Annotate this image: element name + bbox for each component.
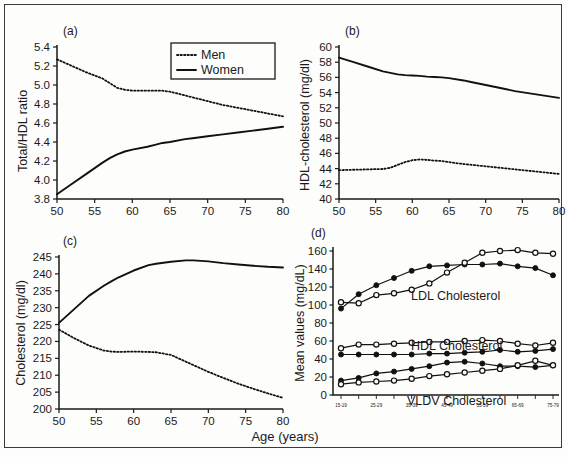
data-point-marker (409, 376, 414, 381)
data-point-marker (391, 341, 396, 346)
ytick-label: 220 (33, 335, 52, 347)
ytick-label: 140 (308, 263, 327, 275)
data-point-marker (374, 283, 379, 288)
data-point-marker (533, 365, 538, 370)
ytick-label: 46 (319, 147, 332, 159)
xtick-label: 70 (202, 415, 215, 427)
data-point-marker (427, 374, 432, 379)
xtick-label: 75 (516, 205, 529, 217)
legend-women-label: Women (201, 63, 244, 77)
data-point-marker (392, 352, 397, 357)
data-point-marker (533, 250, 538, 255)
ytick-label: 245 (33, 251, 52, 263)
panel-a-ytick-labels: 3.84.04.24.44.64.85.05.25.4 (34, 41, 51, 205)
ytick-label: 205 (33, 386, 52, 398)
shared-xaxis-title: Age (years) (185, 429, 385, 444)
data-point-marker (551, 347, 556, 352)
data-point-marker (497, 366, 502, 371)
data-point-marker (551, 273, 556, 278)
xtick-label: 25-29 (370, 403, 382, 408)
panel-b-ytick-labels: 4042444648505254565860 (319, 41, 332, 205)
data-point-marker (374, 352, 379, 357)
data-point-marker (515, 363, 520, 368)
data-point-marker (427, 264, 432, 269)
ytick-label: 48 (319, 132, 332, 144)
ytick-label: 58 (319, 56, 332, 68)
panel-d-svg: (d) Mean values (mg/dL) 0204060801001201… (293, 223, 568, 423)
xtick-label: 60 (406, 205, 419, 217)
xtick-label: 60 (127, 415, 140, 427)
ytick-label: 54 (319, 87, 332, 99)
ytick-label: 215 (33, 352, 52, 364)
ytick-label: 40 (319, 193, 332, 205)
panel-c-label: (c) (63, 234, 77, 248)
series-line-women (57, 127, 283, 194)
panel-a-label: (a) (63, 24, 78, 38)
data-point-marker (374, 293, 379, 298)
panel-b-hdl-cholesterol: (b) HDL-cholesterol (mg/dl) 404244464850… (293, 13, 568, 227)
ytick-label: 0 (321, 389, 327, 401)
data-point-marker (533, 266, 538, 271)
ytick-label: 20 (314, 371, 327, 383)
data-point-marker (462, 370, 467, 375)
ytick-label: 40 (314, 353, 327, 365)
ytick-label: 3.8 (34, 193, 50, 205)
data-point-marker (338, 346, 343, 351)
xtick-label: 80 (277, 205, 290, 217)
xtick-label: 70 (201, 205, 214, 217)
xtick-label: 65-69 (512, 403, 524, 408)
data-point-marker (480, 361, 485, 366)
panel-a-svg: (a) Total/HDL ratio 3.84.04.24.44.64.85.… (11, 13, 293, 227)
xtick-label: 55 (90, 415, 103, 427)
ytick-label: 240 (33, 268, 52, 280)
data-point-marker (515, 264, 520, 269)
panel-d-label: (d) (311, 226, 326, 240)
data-point-marker (533, 348, 538, 353)
data-point-marker (550, 363, 555, 368)
ytick-label: 100 (308, 299, 327, 311)
xtick-label: 15-19 (335, 403, 347, 408)
panel-a-legend: Men Women (171, 43, 275, 79)
data-point-marker (445, 360, 450, 365)
data-point-marker (550, 340, 555, 345)
data-point-marker (498, 261, 503, 266)
panel-c-ytick-labels: 200205210215220225230235240245 (33, 251, 52, 415)
ytick-label: 120 (308, 281, 327, 293)
xtick-label: 60 (126, 205, 139, 217)
ytick-label: 80 (314, 317, 327, 329)
data-point-marker (515, 349, 520, 354)
data-point-marker (427, 364, 432, 369)
data-point-marker (356, 301, 361, 306)
xtick-label: 80 (553, 205, 566, 217)
data-point-marker (391, 291, 396, 296)
xtick-label: 50 (53, 415, 66, 427)
ytick-label: 235 (33, 285, 52, 297)
panel-c-ticks (55, 257, 283, 413)
ytick-label: 4.8 (34, 98, 50, 110)
ytick-label: 5.4 (34, 41, 51, 53)
series-line-women (59, 260, 283, 322)
panel-b-label: (b) (345, 24, 360, 38)
data-point-marker (356, 352, 361, 357)
panel-d-mean-values: (d) Mean values (mg/dL) 0204060801001201… (293, 223, 568, 423)
data-point-marker (339, 352, 344, 357)
xtick-label: 80 (277, 415, 290, 427)
data-point-marker (480, 262, 485, 267)
data-point-marker (550, 251, 555, 256)
ytick-label: 4.0 (34, 174, 50, 186)
ytick-label: 44 (319, 163, 332, 175)
panel-a-ylabel: Total/HDL ratio (16, 90, 30, 172)
data-point-marker (338, 382, 343, 387)
ytick-label: 50 (319, 117, 332, 129)
panel-d-ylabel: Mean values (mg/dL) (293, 264, 307, 381)
data-point-marker (444, 270, 449, 275)
data-point-marker (409, 268, 414, 273)
annotation-hdl-cholesterol: HDL Cholesterol (411, 339, 502, 353)
panel-a-xtick-labels: 50556065707580 (51, 205, 290, 217)
ytick-label: 4.4 (34, 136, 51, 148)
ytick-label: 4.6 (34, 117, 50, 129)
xtick-label: 65 (165, 415, 178, 427)
series-line-men (339, 159, 559, 173)
xtick-label: 65 (164, 205, 177, 217)
xtick-label: 50 (333, 205, 346, 217)
